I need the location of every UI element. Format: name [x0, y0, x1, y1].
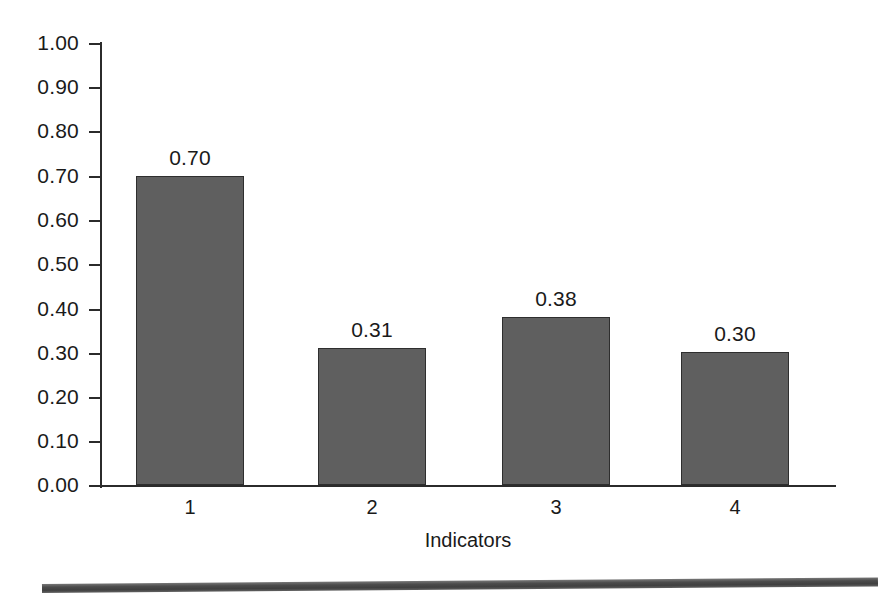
y-axis-tick-label: 0.10 — [9, 430, 79, 451]
bar-value-label-3: 0.38 — [496, 288, 616, 309]
y-axis-line — [100, 42, 102, 488]
y-axis-tick-0.40: 0.40 — [0, 309, 101, 311]
x-axis-line — [100, 485, 836, 487]
y-axis-tick-label: 0.70 — [9, 165, 79, 186]
y-axis-tick-0.60: 0.60 — [0, 220, 101, 222]
y-axis-tick-label: 0.30 — [9, 342, 79, 363]
y-axis-tick-label: 0.60 — [9, 209, 79, 230]
bar-2 — [318, 348, 426, 485]
y-axis-tick-1.00: 1.00 — [0, 43, 101, 45]
y-axis-tick-label: 0.80 — [9, 120, 79, 141]
y-axis-tick-0.80: 0.80 — [0, 131, 101, 133]
page-divider-rule — [42, 577, 878, 593]
bar-4 — [681, 352, 789, 485]
x-axis-title: Indicators — [100, 530, 836, 550]
y-axis-tick-label: 0.90 — [9, 76, 79, 97]
y-axis-tick-label: 0.20 — [9, 386, 79, 407]
x-axis-tick-label-3: 3 — [496, 497, 616, 517]
y-axis-tick-label: 1.00 — [9, 32, 79, 53]
bar-value-label-4: 0.30 — [675, 323, 795, 344]
y-axis-tick-label: 0.50 — [9, 253, 79, 274]
bar-3 — [502, 317, 610, 485]
bar-1 — [136, 176, 244, 485]
x-axis-tick-label-1: 1 — [130, 497, 250, 517]
y-axis-tick-0.50: 0.50 — [0, 264, 101, 266]
y-axis-tick-0.00: 0.00 — [0, 485, 101, 487]
y-axis-tick-0.10: 0.10 — [0, 441, 101, 443]
bar-value-label-1: 0.70 — [130, 147, 250, 168]
y-axis-tick-label: 0.40 — [9, 298, 79, 319]
y-axis-tick-0.90: 0.90 — [0, 87, 101, 89]
x-axis-tick-label-2: 2 — [312, 497, 432, 517]
bar-chart-figure: 1.00 0.90 0.80 0.70 0.60 0.50 0.40 0.30 … — [0, 0, 878, 560]
y-axis-tick-0.20: 0.20 — [0, 397, 101, 399]
y-axis-tick-label: 0.00 — [9, 474, 79, 495]
y-axis-tick-0.30: 0.30 — [0, 353, 101, 355]
x-axis-tick-label-4: 4 — [675, 497, 795, 517]
y-axis-tick-0.70: 0.70 — [0, 176, 101, 178]
bar-value-label-2: 0.31 — [312, 319, 432, 340]
